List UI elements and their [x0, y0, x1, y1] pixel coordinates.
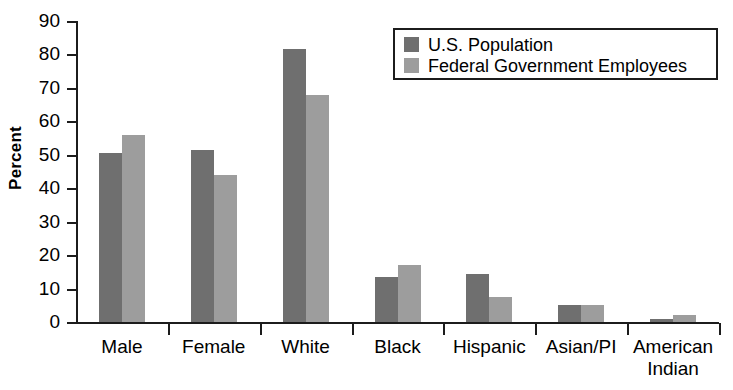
- light-gray-swatch-icon: [404, 58, 419, 73]
- y-axis-tick: 40: [67, 188, 76, 190]
- y-axis-tick: 70: [67, 88, 76, 90]
- y-axis-tick-label: 50: [39, 144, 60, 166]
- y-axis-tick-label: 20: [39, 244, 60, 266]
- y-axis-tick: 60: [67, 121, 76, 123]
- bar: [398, 265, 421, 322]
- bar: [283, 49, 306, 322]
- legend-label: Federal Government Employees: [428, 57, 687, 75]
- dark-gray-swatch-icon: [404, 37, 419, 52]
- bar: [214, 175, 237, 322]
- x-axis-separator-tick: [352, 323, 354, 335]
- y-axis-tick: 50: [67, 155, 76, 157]
- bar: [673, 315, 696, 322]
- bar: [191, 150, 214, 322]
- x-axis-separator-tick: [443, 323, 445, 335]
- y-axis-tick-label: 60: [39, 110, 60, 132]
- y-axis-tick: 10: [67, 289, 76, 291]
- y-axis-tick: 80: [67, 54, 76, 56]
- y-axis-tick: 90: [67, 21, 76, 23]
- bar: [122, 135, 145, 322]
- chart-legend: U.S. Population Federal Government Emplo…: [393, 28, 718, 80]
- y-axis-tick: 20: [67, 255, 76, 257]
- bar: [581, 305, 604, 322]
- y-axis-tick-label: 90: [39, 10, 60, 32]
- y-axis-tick-label: 0: [49, 311, 60, 333]
- x-axis-line: [76, 322, 719, 324]
- x-axis-separator-tick: [719, 323, 721, 335]
- bar: [306, 95, 329, 322]
- bar: [99, 153, 122, 322]
- bar: [650, 319, 673, 322]
- x-axis-category-label: Hispanic: [443, 336, 535, 358]
- y-axis-tick-label: 70: [39, 77, 60, 99]
- bar: [375, 277, 398, 322]
- legend-label: U.S. Population: [428, 36, 553, 54]
- x-axis-category-label: Male: [76, 336, 168, 358]
- bar: [558, 305, 581, 322]
- y-axis-line: [76, 21, 78, 324]
- y-axis-tick-label: 10: [39, 278, 60, 300]
- y-axis-title: Percent: [6, 118, 26, 198]
- x-axis-category-label: White: [260, 336, 352, 358]
- legend-entry: U.S. Population: [404, 34, 716, 55]
- bar-chart: Percent 0102030405060708090 MaleFemaleWh…: [0, 0, 733, 390]
- x-axis-category-label: Black: [352, 336, 444, 358]
- x-axis-category-label: Female: [168, 336, 260, 358]
- bar: [489, 297, 512, 322]
- y-axis-tick: 0: [67, 322, 76, 324]
- x-axis-separator-tick: [260, 323, 262, 335]
- x-axis-separator-tick: [535, 323, 537, 335]
- y-axis-tick-label: 80: [39, 43, 60, 65]
- x-axis-separator-tick: [627, 323, 629, 335]
- y-axis-tick: 30: [67, 222, 76, 224]
- x-axis-category-label: American Indian: [627, 336, 719, 381]
- x-axis-category-label: Asian/PI: [535, 336, 627, 358]
- x-axis-separator-tick: [168, 323, 170, 335]
- y-axis-tick-label: 40: [39, 177, 60, 199]
- bar: [466, 274, 489, 322]
- y-axis-tick-label: 30: [39, 211, 60, 233]
- legend-entry: Federal Government Employees: [404, 55, 716, 76]
